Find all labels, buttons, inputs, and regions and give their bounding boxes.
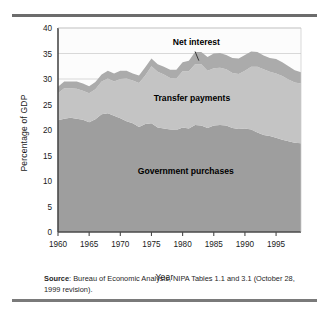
top-rule xyxy=(12,14,317,17)
plot-wrapper: 0510152025303540196019651970197519801985… xyxy=(12,20,317,260)
x-tick-label: 1975 xyxy=(142,240,161,249)
y-tick-label: 30 xyxy=(43,75,53,84)
source-body: : Bureau of Economic Analysis, NIPA Tabl… xyxy=(44,274,295,294)
annotation-transfer-payments: Transfer payments xyxy=(154,93,231,103)
y-tick-label: 25 xyxy=(43,101,53,110)
x-tick-label: 1960 xyxy=(49,240,68,249)
source-note: Source: Bureau of Economic Analysis, NIP… xyxy=(44,274,310,295)
stacked-area-chart: 0510152025303540196019651970197519801985… xyxy=(12,20,317,260)
y-tick-label: 20 xyxy=(43,126,53,135)
source-label: Source xyxy=(44,274,69,283)
y-tick-label: 40 xyxy=(43,24,53,33)
y-axis-title: Percentage of GDP xyxy=(19,87,29,179)
annotation-net-interest: Net interest xyxy=(173,37,220,47)
y-tick-label: 0 xyxy=(47,228,52,237)
x-tick-label: 1980 xyxy=(174,240,193,249)
x-tick-label: 1965 xyxy=(80,240,99,249)
y-tick-label: 35 xyxy=(43,50,53,59)
annotation-government-purchases: Government purchases xyxy=(138,166,234,176)
x-tick-label: 1970 xyxy=(111,240,130,249)
y-tick-label: 10 xyxy=(43,177,53,186)
x-tick-label: 1995 xyxy=(267,240,286,249)
figure-container: 0510152025303540196019651970197519801985… xyxy=(0,0,329,315)
y-tick-label: 15 xyxy=(43,152,53,161)
y-tick-label: 5 xyxy=(47,203,52,212)
bottom-rule xyxy=(12,299,317,302)
x-tick-label: 1990 xyxy=(236,240,255,249)
x-tick-label: 1985 xyxy=(205,240,224,249)
